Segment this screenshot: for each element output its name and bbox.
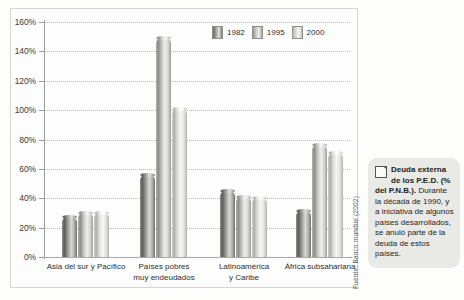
y-axis-tick xyxy=(39,257,44,258)
y-axis-tick-label: 80% xyxy=(19,135,36,145)
y-axis-tick xyxy=(39,81,44,82)
gridline xyxy=(44,257,350,258)
y-axis-tick-label: 60% xyxy=(19,164,36,174)
y-axis-tick xyxy=(39,22,44,23)
bar xyxy=(94,213,109,257)
bar xyxy=(252,198,267,257)
y-axis-tick-label: 160% xyxy=(15,17,36,27)
annotation-callout: Deuda externa de los P.E.D. (% del P.N.B… xyxy=(368,158,460,268)
legend-item: 1982 xyxy=(212,26,245,39)
legend-swatch xyxy=(212,26,223,39)
bar xyxy=(156,38,171,257)
bar xyxy=(236,197,251,257)
callout-body: Durante la década de 1990, y a iniciativ… xyxy=(375,186,454,258)
bar xyxy=(296,211,311,257)
gridline xyxy=(44,140,350,141)
y-axis-tick xyxy=(39,51,44,52)
bar xyxy=(312,145,327,257)
y-axis-tick xyxy=(39,140,44,141)
chart-page: 0%20%40%60%80%100%120%140%160% Asia del … xyxy=(0,0,464,300)
plot-area: 0%20%40%60%80%100%120%140%160% xyxy=(44,22,350,257)
legend-label: 2000 xyxy=(307,28,325,37)
y-axis-tick-label: 40% xyxy=(19,193,36,203)
bar-group xyxy=(220,191,267,257)
bar xyxy=(220,191,235,257)
y-axis-tick-label: 140% xyxy=(15,46,36,56)
y-axis-tick-label: 20% xyxy=(19,223,36,233)
bar-group xyxy=(140,38,187,257)
gridline xyxy=(44,81,350,82)
legend-item: 1995 xyxy=(252,26,285,39)
bar xyxy=(328,153,343,257)
gridline xyxy=(44,110,350,111)
y-axis-tick-label: 0% xyxy=(24,252,36,262)
x-axis-category-label: Países pobres muy endeudados xyxy=(118,262,210,283)
gridline xyxy=(44,22,350,23)
legend-swatch xyxy=(252,26,263,39)
bar-group xyxy=(296,145,343,257)
chart-legend: 198219952000 xyxy=(212,26,324,39)
bar xyxy=(140,175,155,257)
legend-item: 2000 xyxy=(292,26,325,39)
bar xyxy=(78,213,93,257)
legend-label: 1982 xyxy=(227,28,245,37)
y-axis-tick xyxy=(39,110,44,111)
legend-swatch xyxy=(292,26,303,39)
y-axis-tick-label: 100% xyxy=(15,105,36,115)
source-credit: Fuente: Banco mundial (2002) xyxy=(352,196,359,289)
bar-group xyxy=(62,213,109,257)
note-icon xyxy=(375,166,387,178)
y-axis-tick-label: 120% xyxy=(15,76,36,86)
y-axis-tick xyxy=(39,228,44,229)
y-axis-tick xyxy=(39,169,44,170)
bar xyxy=(62,217,77,257)
y-axis-tick xyxy=(39,198,44,199)
legend-label: 1995 xyxy=(267,28,285,37)
bar xyxy=(172,109,187,257)
gridline xyxy=(44,51,350,52)
